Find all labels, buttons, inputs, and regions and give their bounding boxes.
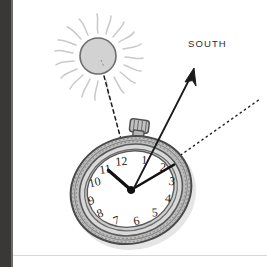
watch-sun-diagram: 12 1 2 3 4 5 6 7 8 9 10 11 — [0, 0, 267, 267]
numeral-5: 5 — [152, 205, 159, 219]
pocket-watch: 12 1 2 3 4 5 6 7 8 9 10 11 — [51, 105, 211, 266]
sun-icon — [55, 14, 143, 100]
south-label: SOUTH — [188, 38, 227, 49]
illustration-canvas: 12 1 2 3 4 5 6 7 8 9 10 11 — [0, 0, 267, 267]
sun-disc — [80, 38, 116, 74]
numeral-11: 11 — [98, 161, 112, 177]
numeral-4: 4 — [165, 191, 172, 205]
numeral-12: 12 — [115, 154, 128, 169]
